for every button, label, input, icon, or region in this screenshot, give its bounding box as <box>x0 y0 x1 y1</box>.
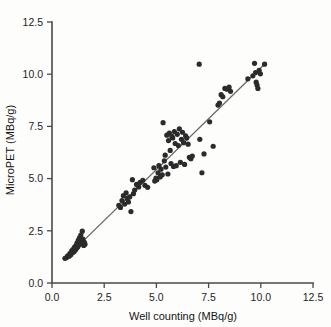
data-point <box>252 61 257 66</box>
data-point <box>255 86 260 91</box>
y-tick-label: 5.0 <box>28 172 43 184</box>
data-point <box>160 172 165 177</box>
data-point <box>126 199 131 204</box>
data-point <box>118 205 123 210</box>
axes <box>52 22 313 283</box>
y-axis-title: MicroPET (MBq/g) <box>4 105 16 195</box>
data-point <box>163 153 168 158</box>
data-point <box>245 76 250 81</box>
x-tick-label: 0.0 <box>45 291 60 303</box>
y-tick-label: 12.5 <box>23 16 44 28</box>
data-point <box>228 89 233 94</box>
x-tick-label: 7.5 <box>201 291 216 303</box>
y-tick-label: 7.5 <box>28 120 43 132</box>
data-point <box>181 140 186 145</box>
axis-spine <box>52 22 313 283</box>
x-tick-label: 12.5 <box>303 291 324 303</box>
data-point <box>258 71 263 76</box>
x-axis-title: Well counting (MBq/g) <box>129 310 237 322</box>
figure-container: 0.02.55.07.510.012.5 0.02.55.07.510.012.… <box>0 0 331 327</box>
data-point <box>168 148 173 153</box>
data-point <box>140 178 145 183</box>
data-point <box>262 62 267 67</box>
data-point <box>80 229 85 234</box>
data-point <box>82 242 87 247</box>
data-point <box>160 120 165 125</box>
y-tick-label: 0.0 <box>28 277 43 289</box>
data-point <box>201 151 206 156</box>
y-tick-labels: 0.02.55.07.510.012.5 <box>23 16 44 289</box>
data-point <box>175 132 180 137</box>
data-point <box>182 162 187 167</box>
data-point <box>145 185 150 190</box>
x-tick-label: 2.5 <box>97 291 112 303</box>
data-point <box>136 184 141 189</box>
data-point <box>217 100 222 105</box>
data-point <box>197 62 202 67</box>
data-point <box>211 144 216 149</box>
y-tick-label: 2.5 <box>28 225 43 237</box>
y-tick-label: 10.0 <box>23 68 44 80</box>
data-point <box>124 190 129 195</box>
data-point <box>186 142 191 147</box>
data-point <box>158 167 163 172</box>
data-point <box>184 135 189 140</box>
data-point <box>162 158 167 163</box>
x-tick-label: 10.0 <box>251 291 272 303</box>
data-point <box>170 135 175 140</box>
data-point <box>130 177 135 182</box>
data-point <box>163 165 168 170</box>
data-point <box>165 171 170 176</box>
data-point <box>151 165 156 170</box>
tick-marks <box>47 22 313 288</box>
x-tick-labels: 0.02.55.07.510.012.5 <box>45 291 324 303</box>
scatter-plot: 0.02.55.07.510.012.5 0.02.55.07.510.012.… <box>0 0 331 327</box>
data-point <box>199 170 204 175</box>
data-point <box>176 143 181 148</box>
data-point <box>220 94 225 99</box>
data-point <box>207 119 212 124</box>
data-point <box>197 137 202 142</box>
x-tick-label: 5.0 <box>149 291 164 303</box>
data-point <box>190 153 195 158</box>
data-point <box>128 209 133 214</box>
data-point <box>174 163 179 168</box>
